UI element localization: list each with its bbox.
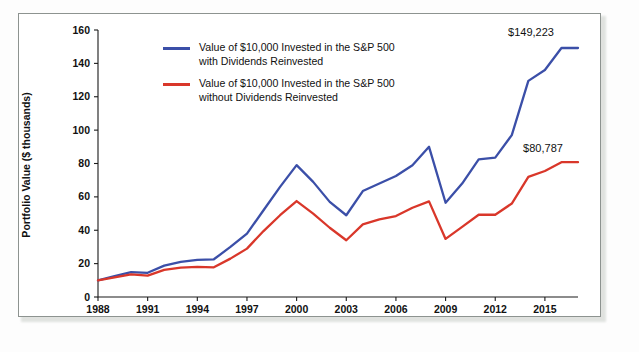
y-tick-label: 140 (72, 57, 90, 69)
series-line-without-dividends (98, 162, 578, 280)
y-tick-label: 60 (78, 190, 90, 202)
legend-swatch-red (163, 83, 190, 86)
legend-item-without-dividends[interactable]: Value of $10,000 Invested in the S&P 500… (163, 77, 453, 104)
x-tick-label: 1994 (186, 303, 210, 315)
chart-figure: 020406080100120140160 198819911994199720… (0, 0, 639, 352)
y-tick-label: 160 (72, 24, 90, 36)
y-tick-label: 40 (78, 224, 90, 236)
y-axis-ticks: 020406080100120140160 (72, 24, 98, 303)
x-tick-label: 1991 (136, 303, 160, 315)
x-tick-label: 2000 (285, 303, 309, 315)
x-axis-ticks: 1988199119941997200020032006200920122015 (86, 297, 556, 315)
annotation-without-dividends-final: $80,787 (523, 142, 563, 154)
annotation-with-dividends-final: $149,223 (508, 26, 554, 38)
x-tick-label: 2003 (335, 303, 359, 315)
legend-label-without-dividends: Value of $10,000 Invested in the S&P 500… (199, 77, 395, 104)
x-tick-label: 2012 (484, 303, 508, 315)
y-tick-label: 0 (84, 291, 90, 303)
y-tick-label: 100 (72, 124, 90, 136)
x-tick-label: 1997 (235, 303, 259, 315)
x-tick-label: 2006 (384, 303, 408, 315)
y-tick-label: 120 (72, 90, 90, 102)
chart-legend: Value of $10,000 Invested in the S&P 500… (163, 41, 453, 113)
y-tick-label: 20 (78, 257, 90, 269)
legend-swatch-blue (163, 47, 190, 50)
x-tick-label: 2015 (533, 303, 557, 315)
legend-item-with-dividends[interactable]: Value of $10,000 Invested in the S&P 500… (163, 41, 453, 68)
legend-label-with-dividends: Value of $10,000 Invested in the S&P 500… (199, 41, 395, 68)
y-axis-title: Portfolio Value ($ thousands) (20, 92, 32, 237)
y-tick-label: 80 (78, 157, 90, 169)
x-tick-label: 2009 (434, 303, 458, 315)
data-annotations: $149,223$80,787 (508, 26, 563, 154)
x-tick-label: 1988 (86, 303, 110, 315)
